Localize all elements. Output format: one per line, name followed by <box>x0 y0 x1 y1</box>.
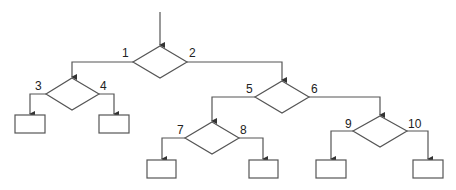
decision-diamond-5 <box>353 116 407 147</box>
branch-label-10: 10 <box>408 118 421 130</box>
edge-7 <box>162 138 185 159</box>
edge-9 <box>331 131 353 159</box>
decision-diamond-4 <box>185 122 239 154</box>
branch-label-4: 4 <box>100 80 107 92</box>
edge-8 <box>239 138 263 159</box>
edge-4 <box>99 94 114 114</box>
leaf-box-2 <box>99 115 129 133</box>
branch-label-8: 8 <box>240 124 247 136</box>
edge-3 <box>30 94 46 114</box>
branch-label-9: 9 <box>345 118 352 130</box>
edge-5 <box>212 97 255 121</box>
branch-label-7: 7 <box>177 124 184 136</box>
leaf-box-6 <box>413 160 443 178</box>
leaf-box-3 <box>147 160 176 178</box>
edge-2 <box>187 62 282 80</box>
decision-diamond-2 <box>46 78 99 110</box>
decision-tree-diagram: 1 2 3 4 5 6 7 8 9 10 <box>0 0 456 190</box>
decision-diamond-1 <box>133 46 187 78</box>
branch-label-2: 2 <box>189 47 196 59</box>
branch-label-6: 6 <box>311 83 318 95</box>
leaf-box-1 <box>15 115 45 133</box>
edge-10 <box>407 131 428 159</box>
branch-label-1: 1 <box>122 47 129 59</box>
edge-1 <box>72 62 133 77</box>
leaf-box-4 <box>249 160 278 178</box>
leaf-box-5 <box>316 160 346 178</box>
branch-label-3: 3 <box>35 80 42 92</box>
decision-diamond-3 <box>255 81 309 113</box>
diagram-graphics <box>0 0 456 190</box>
branch-label-5: 5 <box>246 83 253 95</box>
edge-6 <box>309 97 380 115</box>
